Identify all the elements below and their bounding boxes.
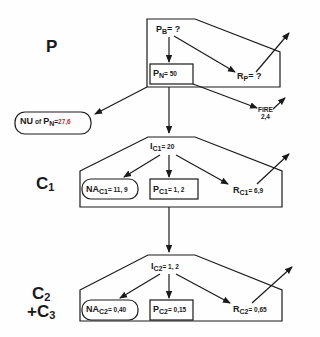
level-c2-label: C2	[32, 285, 50, 303]
na-c2-label: NAC2= 0,40	[86, 305, 126, 315]
level-c3-label: +C3	[27, 303, 55, 321]
pn-label: PN= 50	[153, 69, 177, 79]
ic2-label: IC2= 1, 2	[151, 262, 179, 272]
r-c1-label: RC1= 6,9	[233, 186, 263, 196]
p-c1-label: PC1= 1, 2	[153, 185, 184, 195]
ic1-label: IC1= 20	[150, 142, 174, 152]
nu-label: NUofPN=27,6	[20, 117, 71, 127]
p-c2-label: PC2= 0,15	[153, 305, 186, 315]
na-c1-label: NAC1= 11, 9	[86, 185, 128, 195]
c1-compartment	[80, 137, 282, 207]
pb-label: PB= ?	[156, 25, 180, 35]
rp-label: RP= ?	[237, 72, 261, 82]
level-c1-label: C1	[36, 175, 54, 193]
fire-label: FIRE2,4	[258, 107, 273, 120]
r-c2-label: RC2= 0,65	[233, 305, 267, 315]
level-p-label: P	[46, 38, 57, 55]
